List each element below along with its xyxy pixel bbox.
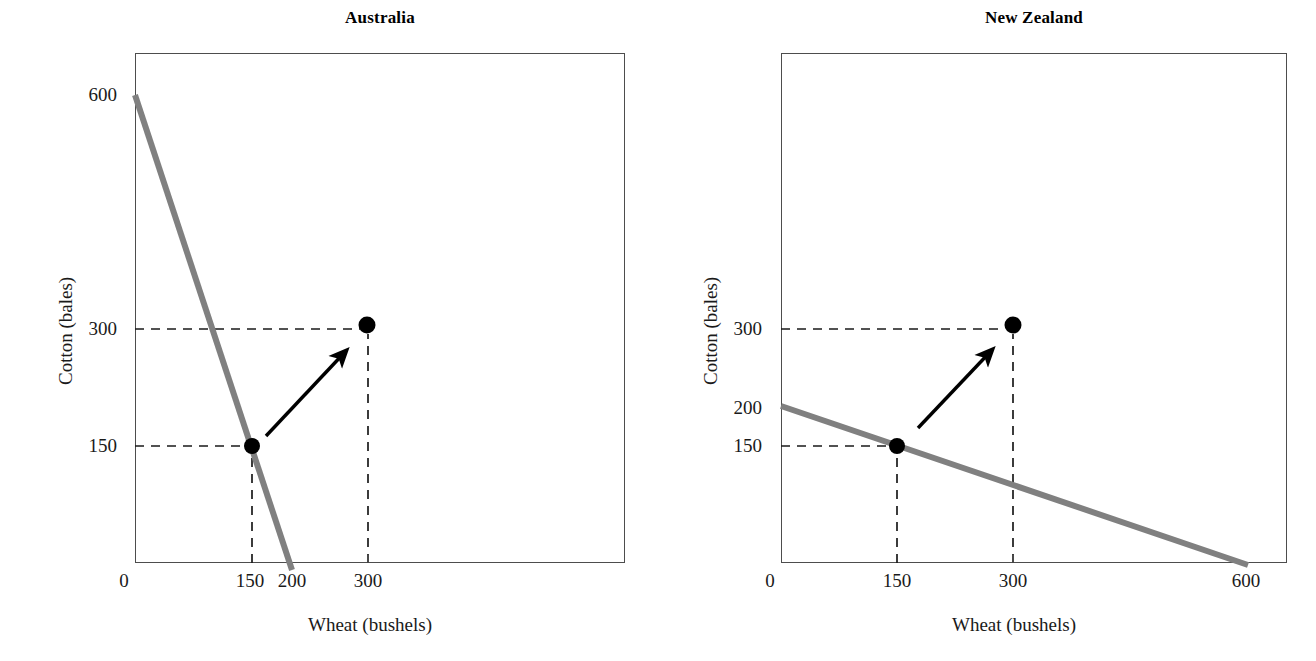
data-point-production-newzealand (889, 438, 905, 454)
xaxis-title-australia: Wheat (bushels) (240, 614, 500, 636)
xtick-label-150-australia: 150 (236, 570, 265, 592)
yaxis-title-australia: Cotton (bales) (55, 277, 77, 385)
xtick-label-0-australia: 0 (119, 570, 129, 592)
xtick-label-0-newzealand: 0 (765, 570, 775, 592)
chart-panel-australia: Australia (0, 0, 658, 661)
xaxis-title-newzealand: Wheat (bushels) (884, 614, 1144, 636)
data-point-production-australia (244, 438, 260, 454)
ppf-line-newzealand (781, 406, 1248, 565)
ytick-label-200-newzealand: 200 (700, 397, 762, 419)
xtick-label-150-newzealand: 150 (883, 570, 912, 592)
xtick-label-600-newzealand: 600 (1232, 570, 1261, 592)
ytick-label-600-australia: 600 (55, 84, 117, 106)
xtick-label-300-newzealand: 300 (999, 570, 1028, 592)
xtick-label-300-australia: 300 (354, 570, 383, 592)
ppf-line-australia (135, 95, 292, 570)
data-point-consumption-australia (359, 317, 376, 334)
ytick-label-150-newzealand: 150 (700, 435, 762, 457)
xtick-label-200-australia: 200 (278, 570, 307, 592)
shift-arrow-australia (266, 352, 345, 436)
figure-two-panel-ppf-chart: Australia (0, 0, 1316, 661)
shift-arrow-newzealand (918, 351, 991, 428)
yaxis-title-newzealand: Cotton (bales) (700, 277, 722, 385)
chart-panel-newzealand: New Zealand 300 200 (658, 0, 1316, 661)
data-point-consumption-newzealand (1005, 317, 1022, 334)
ytick-label-150-australia: 150 (55, 435, 117, 457)
